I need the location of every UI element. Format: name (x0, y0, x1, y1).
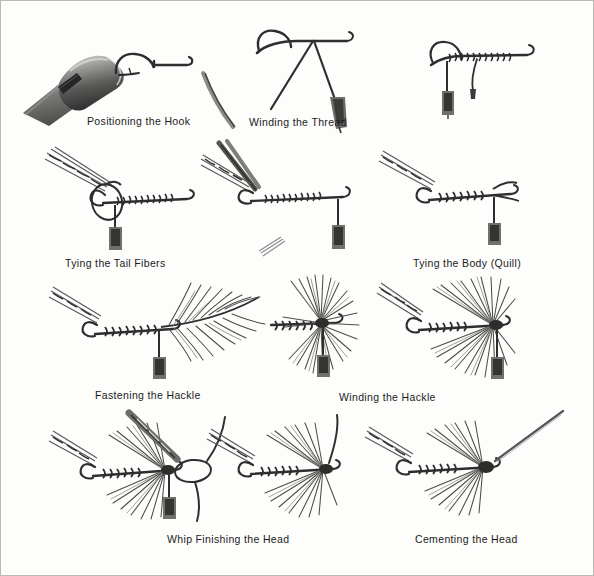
bobbin (332, 199, 345, 249)
figure-tying-the-tail-fibers (45, 147, 215, 252)
figure-fastening-the-hackle (45, 269, 290, 384)
fly-tying-plate: Positioning the Hook (0, 0, 594, 576)
caption-winding-the-thread: Winding the Thread (249, 116, 347, 128)
caption-whip-finishing-the-head: Whip Finishing the Head (167, 533, 289, 545)
figure-whip-finishing-the-head (25, 413, 230, 525)
tail-fibers (207, 429, 255, 463)
thread-tag (329, 415, 338, 463)
tying-thread (271, 41, 337, 109)
hook (257, 31, 353, 53)
tweezers (219, 141, 259, 190)
caption-cementing-the-head: Cementing the Head (415, 533, 518, 545)
loose-fibers (259, 237, 285, 256)
bobbin (442, 61, 454, 119)
thread-strand (203, 73, 235, 127)
hackle-feather (161, 283, 265, 361)
figure-finished-fly-with-tag (205, 415, 375, 525)
figure-holding-tail-fibers (201, 141, 376, 256)
figure-thread-wound-shank (415, 29, 565, 119)
bobbin (163, 473, 176, 519)
tail-fibers (379, 151, 435, 189)
bobbin (488, 197, 501, 245)
figure-tying-the-body-quill (377, 149, 552, 249)
caption-fastening-the-hackle: Fastening the Hackle (95, 389, 201, 401)
caption-tying-the-body-quill: Tying the Body (Quill) (413, 257, 521, 269)
caption-tying-the-tail-fibers: Tying the Tail Fibers (65, 257, 166, 269)
thread-tag (470, 59, 477, 99)
bare-hook (116, 54, 192, 75)
figure-hackle-swept-back (377, 273, 552, 385)
tail-fibers (377, 283, 423, 319)
bobbin (153, 331, 166, 379)
caption-positioning-the-hook: Positioning the Hook (87, 115, 190, 127)
tail-fibers (365, 427, 413, 461)
tail-fibers (49, 431, 97, 465)
tail-fibers (49, 287, 101, 323)
quill-body (105, 325, 156, 336)
figure-cementing-the-head (363, 409, 568, 524)
figure-positioning-the-hook (15, 27, 195, 122)
applicator-needle (495, 411, 563, 462)
caption-winding-the-hackle: Winding the Hackle (339, 391, 436, 403)
